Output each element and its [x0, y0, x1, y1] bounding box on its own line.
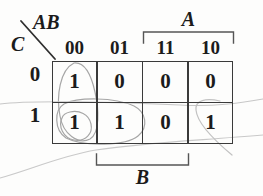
row-header-0: 0 [22, 62, 48, 87]
column-header-00: 00 [52, 37, 97, 59]
bracket-label-b: B [95, 166, 190, 189]
cell-r1-c11: 0 [143, 102, 188, 143]
cell-r0-c01: 0 [97, 61, 142, 102]
cell-r0-c11: 0 [143, 61, 188, 102]
bracket-b [95, 153, 190, 167]
bracket-a [142, 30, 235, 44]
row-header-1: 1 [22, 103, 48, 128]
cell-r1-c00: 1 [52, 102, 97, 143]
cell-r1-c01: 1 [97, 102, 142, 143]
cell-r0-c10: 0 [188, 61, 233, 102]
cell-r1-c10: 1 [188, 102, 233, 143]
column-header-01: 01 [97, 37, 142, 59]
karnaugh-map-diagram: AB C 00 01 11 10 0 1 A B 1 0 0 0 1 1 0 1 [0, 0, 263, 196]
cell-r0-c00: 1 [52, 61, 97, 102]
bracket-label-a: A [142, 8, 235, 31]
